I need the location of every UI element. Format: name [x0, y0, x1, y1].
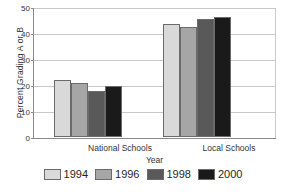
y-axis-tick-mark [31, 8, 34, 9]
bar[interactable] [180, 27, 197, 137]
bar[interactable] [163, 24, 180, 137]
legend-swatch [44, 169, 61, 180]
legend-swatch [95, 169, 112, 180]
bar-group-bars [54, 7, 122, 137]
legend-item[interactable]: 1998 [147, 168, 191, 180]
legend-label: 1996 [115, 168, 139, 180]
legend-label: 2000 [218, 168, 242, 180]
legend-label: 1994 [64, 168, 88, 180]
legend-swatch [147, 169, 164, 180]
chart-legend: 1994199619982000 [0, 168, 286, 180]
legend-swatch [198, 169, 215, 180]
y-axis-tick-mark [31, 138, 34, 139]
bar[interactable] [88, 91, 105, 137]
y-axis-tick-mark [31, 60, 34, 61]
bar[interactable] [54, 80, 71, 137]
plot-area [33, 8, 276, 139]
legend-item[interactable]: 1994 [44, 168, 88, 180]
x-axis-category-label: National Schools [60, 143, 180, 153]
y-axis-tick-labels: 01020304050 [14, 8, 30, 139]
y-axis-tick-mark [31, 112, 34, 113]
bar[interactable] [197, 19, 214, 137]
x-axis-title: Year [33, 155, 276, 165]
y-axis-tick-label: 30 [21, 56, 30, 65]
bar-chart-figure: Percent Grading A or B 01020304050 Year … [0, 0, 286, 192]
bar-group [163, 7, 231, 137]
y-axis-tick-label: 40 [21, 30, 30, 39]
legend-label: 1998 [167, 168, 191, 180]
y-axis-tick-label: 10 [21, 108, 30, 117]
legend-item[interactable]: 2000 [198, 168, 242, 180]
y-axis-tick-mark [31, 86, 34, 87]
bar[interactable] [71, 83, 88, 137]
bar-group [54, 7, 122, 137]
y-axis-tick-label: 20 [21, 82, 30, 91]
x-axis-category-label: Local Schools [169, 143, 286, 153]
y-axis-tick-label: 0 [26, 134, 30, 143]
bar[interactable] [105, 86, 122, 137]
y-axis-tick-label: 50 [21, 4, 30, 13]
y-axis-tick-mark [31, 34, 34, 35]
legend-item[interactable]: 1996 [95, 168, 139, 180]
bar-group-bars [163, 7, 231, 137]
bar[interactable] [214, 17, 231, 137]
